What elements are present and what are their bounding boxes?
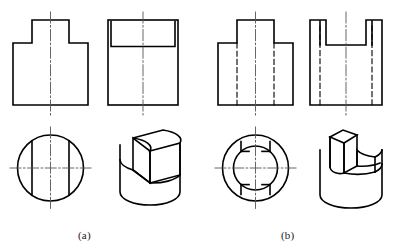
sheet-background	[0, 0, 394, 250]
figure-caption-a: (a)	[78, 229, 91, 241]
technical-drawing-canvas	[0, 0, 394, 250]
figure-caption-b: (b)	[281, 229, 294, 241]
drawing-sheet: (a) (b)	[0, 0, 394, 250]
